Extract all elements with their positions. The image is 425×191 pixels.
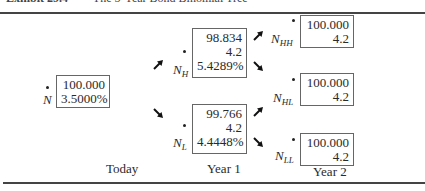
node-hl-label: NHL: [273, 91, 293, 109]
root-node-dot: [46, 86, 49, 89]
node-h-label: NH: [173, 63, 188, 81]
node-hh-coupon: 4.2: [305, 32, 349, 46]
node-l-box: 99.766 4.2 4.4448%: [192, 104, 247, 154]
node-ll-dot: [292, 138, 295, 141]
node-l-coupon: 4.2: [197, 121, 242, 135]
node-h-coupon: 4.2: [197, 45, 242, 59]
root-node-value: 100.000: [61, 78, 105, 92]
node-hl-dot: [292, 78, 295, 81]
arrow-down-icon: [152, 107, 164, 119]
node-h-value: 98.834: [197, 31, 242, 45]
node-h-dot: [183, 50, 186, 53]
node-hl-value: 100.000: [305, 76, 349, 90]
arrow-up-icon: [152, 59, 164, 71]
node-hh-box: 100.000 4.2: [300, 15, 354, 48]
node-l-rate: 4.4448%: [197, 135, 242, 149]
axis-label-today: Today: [106, 161, 138, 177]
node-hh-value: 100.000: [305, 18, 349, 32]
node-ll-box: 100.000 4.2: [300, 133, 354, 166]
arrow-lh-icon: [252, 106, 264, 118]
root-node-rate: 3.5000%: [61, 92, 105, 106]
node-hh-dot: [292, 19, 295, 22]
node-h-rate: 5.4289%: [197, 59, 242, 73]
node-h-box: 98.834 4.2 5.4289%: [192, 28, 247, 78]
node-ll-label: NLL: [275, 149, 294, 167]
axis-label-year2: Year 2: [313, 164, 347, 180]
arrow-hl-icon: [252, 60, 264, 72]
node-hl-coupon: 4.2: [305, 90, 349, 104]
bottom-rule: [3, 182, 425, 184]
node-ll-coupon: 4.2: [305, 150, 349, 164]
node-l-value: 99.766: [197, 107, 242, 121]
arrow-hh-icon: [252, 30, 264, 42]
node-hh-label: NHH: [271, 32, 293, 50]
node-l-label: NL: [173, 136, 187, 154]
exhibit-title: Exhibit 29.4 The 5-Year Bond Binomial Tr…: [0, 0, 248, 5]
axis-label-year1: Year 1: [207, 161, 241, 177]
node-ll-value: 100.000: [305, 136, 349, 150]
exhibit-label: Exhibit 29.4: [6, 0, 68, 5]
exhibit-title-text: The 5-Year Bond Binomial Tree: [93, 0, 248, 5]
root-node-box: 100.000 3.5000%: [56, 75, 110, 108]
node-hl-box: 100.000 4.2: [300, 73, 354, 106]
root-node-label: N: [43, 93, 52, 107]
top-rule: [0, 12, 425, 14]
node-l-dot: [183, 124, 186, 127]
arrow-ll-icon: [252, 136, 264, 148]
